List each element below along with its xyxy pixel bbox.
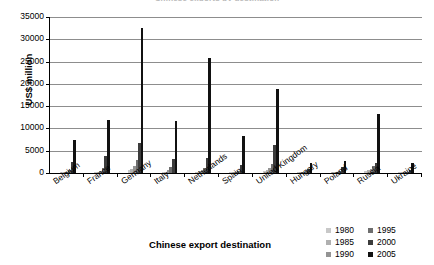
- x-axis-tick: [117, 173, 118, 177]
- bar-group: [253, 17, 287, 173]
- bar-group: [84, 17, 118, 173]
- x-axis-tick: [421, 173, 422, 177]
- x-axis-tick: [218, 173, 219, 177]
- legend-swatch: [368, 228, 373, 233]
- bar-group: [388, 17, 422, 173]
- y-axis-tick: [46, 173, 50, 174]
- legend-label: 1980: [335, 226, 354, 235]
- bar: [141, 28, 144, 173]
- legend-item: 1995: [368, 224, 396, 236]
- x-axis-tick: [320, 173, 321, 177]
- plot-area: [49, 17, 422, 174]
- legend-label: 2005: [377, 250, 396, 259]
- legend-swatch: [368, 240, 373, 245]
- bar-group: [151, 17, 185, 173]
- legend-label: 2000: [377, 238, 396, 247]
- x-axis-tick: [252, 173, 253, 177]
- y-axis-tick-label: 10000: [3, 123, 44, 132]
- legend-label: 1995: [377, 226, 396, 235]
- bar-group: [321, 17, 355, 173]
- bar-group: [185, 17, 219, 173]
- legend-item: 1980: [326, 224, 354, 236]
- y-axis-tick-label: 0: [3, 168, 44, 177]
- y-axis-tick-label: 15000: [3, 101, 44, 110]
- x-axis-tick: [150, 173, 151, 177]
- bar-group: [50, 17, 84, 173]
- legend-label: 1990: [335, 250, 354, 259]
- legend-item: 2000: [368, 236, 396, 248]
- x-axis-tick: [184, 173, 185, 177]
- legend-swatch: [368, 252, 373, 257]
- chart-title: Chinese exports by destination: [0, 0, 434, 1]
- x-axis-tick: [83, 173, 84, 177]
- y-axis-tick-label: 35000: [3, 12, 44, 21]
- legend-item: 1985: [326, 236, 354, 248]
- bar: [377, 114, 380, 173]
- y-axis-tick-label: 5000: [3, 146, 44, 155]
- x-axis-title: Chinese export destination: [95, 239, 325, 250]
- y-axis-tick-label: 25000: [3, 57, 44, 66]
- bar-group: [118, 17, 152, 173]
- legend-swatch: [326, 240, 331, 245]
- y-axis-tick-label: 20000: [3, 79, 44, 88]
- bar: [208, 58, 211, 173]
- legend-swatch: [326, 228, 331, 233]
- bar-group: [219, 17, 253, 173]
- x-axis-tick: [387, 173, 388, 177]
- chart-legend: 198019851990199520002005: [326, 224, 396, 260]
- bar-group: [354, 17, 388, 173]
- legend-item: 2005: [368, 248, 396, 260]
- chart-container: Chinese exports by destination US$ milli…: [0, 0, 434, 265]
- x-axis-tick: [353, 173, 354, 177]
- bar: [175, 121, 178, 173]
- legend-label: 1985: [335, 238, 354, 247]
- y-axis-tick-label: 30000: [3, 34, 44, 43]
- bar: [242, 136, 245, 173]
- legend-swatch: [326, 252, 331, 257]
- legend-item: 1990: [326, 248, 354, 260]
- x-axis-tick: [286, 173, 287, 177]
